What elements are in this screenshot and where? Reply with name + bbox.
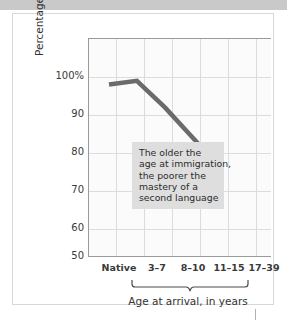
annotation-callout: The older the age at immigration, the po… <box>132 142 224 209</box>
annotation-line-3: the poorer the <box>139 170 218 181</box>
annotation-line-5: second language <box>139 192 218 203</box>
x-tick-label-11-15: 11–15 <box>213 262 244 274</box>
y-tick-label-60: 60 <box>50 223 84 233</box>
x-tick-label-native: Native <box>102 262 137 274</box>
figure-frame: Percentage correct on grammar test 100% … <box>12 13 274 305</box>
x-axis-title: Age at arrival, in years <box>88 295 287 307</box>
y-tick-label-70: 70 <box>50 185 84 195</box>
annotation-line-1: The older the <box>139 147 218 158</box>
y-axis-tick-labels: 100% 90 80 70 60 50 <box>48 38 84 257</box>
page-margin-tick <box>255 309 256 320</box>
y-tick-label-100: 100% <box>50 71 84 81</box>
y-tick-label-80: 80 <box>50 147 84 157</box>
x-tick-label-8-10: 8–10 <box>181 262 206 274</box>
brace-path <box>132 280 248 291</box>
x-tick-label-3-7: 3–7 <box>148 262 166 274</box>
x-axis-group-brace <box>131 280 249 292</box>
annotation-line-4: mastery of a <box>139 181 218 192</box>
x-axis-tick-labels: Native 3–7 8–10 11–15 17–39 <box>88 262 271 276</box>
y-axis-title: Percentage correct on grammar test <box>32 0 46 68</box>
y-tick-label-90: 90 <box>50 109 84 119</box>
annotation-line-2: age at immigration, <box>139 158 218 169</box>
y-tick-label-50: 50 <box>50 251 84 261</box>
x-tick-label-17-39: 17–39 <box>248 262 279 274</box>
